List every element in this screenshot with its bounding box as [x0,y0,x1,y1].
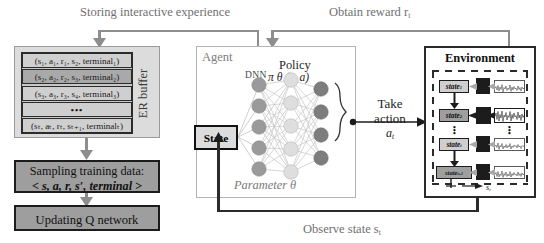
sampling-training-data-box[interactable]: Sampling training data: < s, a, r, s′, t… [14,160,160,193]
take-action-symbol-subscript: t [392,132,394,141]
environment-panel: Environment state1 [424,46,536,198]
er-buffer-panel: (s₁, a₁, r₁, s₂, terminal₁) (s₂, a₂, r₂,… [14,46,160,138]
take-action-line-1: Take [362,96,418,111]
wire-observe-horizontal [217,210,479,213]
environment-state-chip-label: state [446,140,460,149]
wire-reward-horizontal [272,30,510,33]
wire-reward-right-drop [508,30,511,47]
caption-storing-interactive-experience: Storing interactive experience [80,5,230,20]
environment-signal-waveform [494,166,525,179]
environment-content: state1 state2 [430,66,530,192]
environment-state-chip-label: state [446,82,460,91]
environment-axis-label-subscript: t [489,187,490,192]
environment-state-chip[interactable]: statet [439,138,469,151]
environment-axis-label: st [486,183,491,192]
er-buffer-rows: (s₁, a₁, r₁, s₂, terminal₁) (s₂, a₂, r₂,… [21,52,133,134]
wire-store-horizontal [99,30,259,33]
arrowhead-buffer-to-sampling [80,150,93,160]
updating-line-1: Updating Q network [16,207,158,233]
diagram-canvas: Storing interactive experience Obtain re… [0,0,544,243]
environment-state-chip-subscript: t+1 [457,171,463,176]
environment-signal-waveform [494,80,525,93]
wire-observe-left-rise [217,141,220,211]
environment-state-transition-arrow [450,93,459,109]
take-action-label: Take action at [362,96,418,142]
environment-state-chip[interactable]: state1 [439,80,469,93]
environment-vertical-ellipsis: ••• [504,126,515,135]
take-action-line-2: action [362,111,418,126]
take-action-symbol: at [362,126,418,142]
environment-state-chip-label: state [445,169,457,176]
er-buffer-row[interactable]: (sₜ, aₜ, rₜ, sₜ₊₁, terminalₜ) [22,118,132,133]
agent-panel: Agent DNN Policy π θ (s, a) Parameter θ [196,46,356,198]
environment-row-arrow-dark [487,111,495,120]
dnn-network-graphic [197,47,357,199]
environment-state-chip-subscript: 1 [460,85,462,90]
caption-observe-state: Observe state st [303,222,381,237]
environment-row-arrow [469,83,477,90]
wire-store-right-drop [257,30,260,47]
environment-title: Environment [426,51,534,66]
environment-state-chip-subscript: t [460,143,461,148]
environment-state-transition-arrow [450,151,459,167]
environment-state-chip-label: state [446,111,460,120]
environment-signal-waveform [494,108,525,123]
er-buffer-row-ellipsis: ••• [22,102,132,117]
environment-row-arrow [469,169,477,176]
caption-obtain-reward-text: Obtain reward r [329,5,408,19]
environment-row-arrow [469,141,477,148]
environment-signal-waveform [494,138,525,151]
environment-vertical-ellipsis: ••• [449,126,460,135]
updating-q-network-box[interactable]: Updating Q network [14,205,160,231]
caption-observe-state-subscript: t [379,228,381,237]
dnn-output-layer-nodes [314,82,328,165]
environment-row-arrow [488,141,495,148]
er-buffer-row[interactable]: (s₂, a₂, r₂, s₃, terminal₂) [22,69,132,84]
environment-state-chip[interactable]: state2 [439,109,469,122]
arrowhead-observe-to-state [213,132,224,142]
caption-observe-state-text: Observe state s [303,222,379,236]
sampling-line-2: < s, a, r, s′, terminal > [16,179,158,193]
output-brace-icon [335,83,346,141]
sampling-line-1: Sampling training data: [16,162,158,179]
environment-row-arrow-dark [468,111,477,120]
caption-obtain-reward-subscript: t [408,11,410,20]
environment-axis-tick [446,179,456,189]
environment-axis-arrow [462,182,484,190]
environment-row-arrow [488,83,495,90]
environment-state-chip[interactable]: statet+1 [436,166,472,179]
er-buffer-row[interactable]: (s₁, a₁, r₁, s₂, terminal₁) [22,53,132,68]
environment-state-chip-subscript: 2 [460,114,462,119]
environment-row-arrow [488,169,495,176]
er-buffer-label: ER buffer [131,52,157,134]
er-buffer-row[interactable]: (s₃, a₃, r₃, s₄, terminal₃) [22,86,132,101]
caption-obtain-reward: Obtain reward rt [329,5,410,20]
er-buffer-label-text: ER buffer [137,68,152,117]
